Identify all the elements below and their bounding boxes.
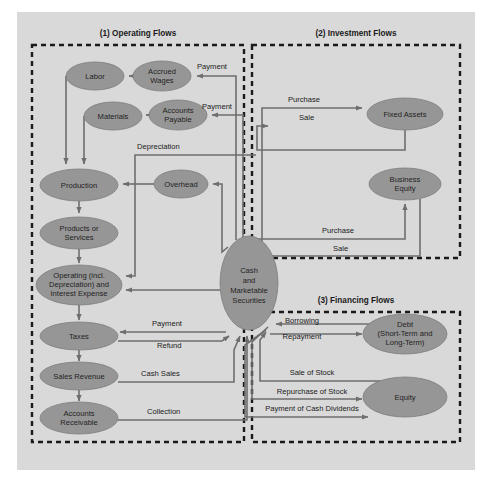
node-labor: Labor — [66, 62, 124, 90]
section-title-financing: (3) Financing Flows — [318, 296, 395, 305]
edge-label-payment-of-cash-dividends: Payment of Cash Dividends — [265, 404, 359, 413]
cash-flow-diagram: (1) Operating Flows (2) Investment Flows… — [0, 0, 492, 482]
node-label-business-equity-1: Business — [390, 175, 421, 184]
section-title-investment: (2) Investment Flows — [316, 29, 397, 38]
node-label-debt-1: Debt — [397, 320, 414, 329]
edge-label-sale-fixed-assets: Sale — [299, 113, 314, 122]
node-overhead: Overhead — [154, 170, 208, 198]
node-label-accounts-payable-1: Accounts — [162, 106, 193, 115]
node-operating-expense: Operating (incl. Depreciation) and Inter… — [36, 265, 122, 305]
node-sales-revenue: Sales Revenue — [40, 362, 118, 390]
node-label-production: Production — [61, 181, 97, 190]
node-accrued-wages: Accrued Wages — [133, 61, 191, 91]
edge-label-repayment: Repayment — [283, 332, 323, 341]
node-label-business-equity-2: Equity — [394, 184, 415, 193]
node-materials: Materials — [84, 102, 142, 130]
node-label-debt-2: (Short-Term and — [378, 329, 433, 338]
node-production: Production — [40, 169, 118, 201]
node-label-labor: Labor — [85, 72, 105, 81]
node-label-accounts-payable-2: Payable — [164, 115, 191, 124]
node-cash-and-marketable-securities: Cash and Marketable Securities — [220, 236, 278, 330]
edge-label-purchase-business-equity: Purchase — [322, 226, 354, 235]
node-label-materials: Materials — [98, 112, 129, 121]
node-taxes: Taxes — [40, 322, 118, 350]
node-label-cash-3: Marketable — [230, 286, 268, 295]
node-label-accrued-wages-1: Accrued — [148, 67, 176, 76]
node-label-cash-1: Cash — [240, 266, 258, 275]
node-label-taxes: Taxes — [69, 332, 89, 341]
edge-label-payment-accounts-payable: Payment — [202, 102, 233, 111]
edge-label-borrowing: Borrowing — [285, 316, 319, 325]
edge-label-payment-taxes: Payment — [152, 319, 183, 328]
node-label-overhead: Overhead — [164, 180, 197, 189]
node-equity: Equity — [363, 377, 447, 417]
edge-label-sale-of-stock: Sale of Stock — [290, 368, 335, 377]
node-label-sales-revenue: Sales Revenue — [53, 372, 105, 381]
node-business-equity: Business Equity — [369, 168, 441, 200]
edge-label-collection: Collection — [147, 407, 180, 416]
node-label-products-2: Services — [64, 233, 93, 242]
node-label-operating-expense-2: Depreciation) and — [49, 280, 109, 289]
edge-label-repurchase-of-stock: Repurchase of Stock — [277, 387, 348, 396]
edge-label-purchase-fixed-assets: Purchase — [288, 95, 320, 104]
node-label-products-1: Products or — [60, 224, 99, 233]
node-label-cash-2: and — [243, 276, 256, 285]
node-label-accrued-wages-2: Wages — [150, 76, 174, 85]
node-accounts-payable: Accounts Payable — [149, 100, 207, 130]
edge-label-payment-accrued-wages: Payment — [197, 62, 228, 71]
node-label-equity: Equity — [394, 393, 415, 402]
node-fixed-assets: Fixed Assets — [367, 98, 443, 130]
node-products-services: Products or Services — [40, 217, 118, 249]
edge-label-sale-business-equity: Sale — [333, 244, 348, 253]
node-label-accounts-receivable-1: Accounts — [63, 409, 94, 418]
node-label-operating-expense-3: Interest Expense — [51, 289, 108, 298]
node-label-operating-expense-1: Operating (incl. — [53, 271, 105, 280]
section-title-operating: (1) Operating Flows — [100, 29, 177, 38]
node-label-accounts-receivable-2: Receivable — [60, 418, 98, 427]
node-accounts-receivable: Accounts Receivable — [40, 402, 118, 434]
edge-label-cash-sales: Cash Sales — [141, 369, 180, 378]
node-debt: Debt (Short-Term and Long-Term) — [363, 314, 447, 354]
edge-label-depreciation: Depreciation — [137, 142, 180, 151]
node-label-fixed-assets: Fixed Assets — [383, 110, 426, 119]
node-label-debt-3: Long-Term) — [386, 338, 425, 347]
edge-label-refund-taxes: Refund — [157, 341, 182, 350]
node-label-cash-4: Securities — [232, 296, 266, 305]
